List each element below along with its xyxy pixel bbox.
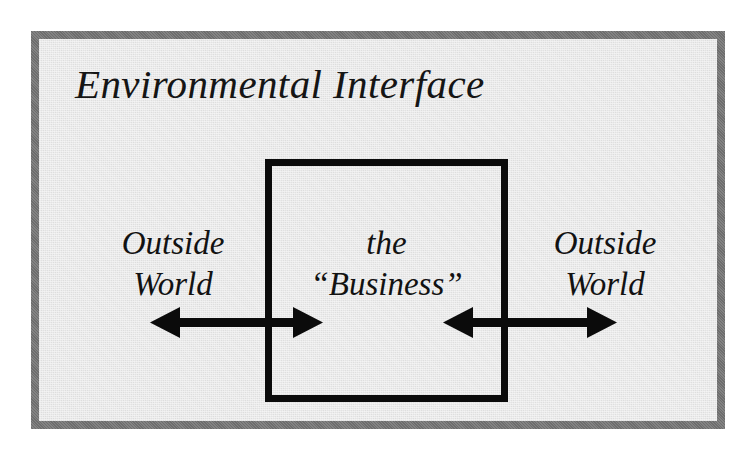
business-box <box>265 159 508 402</box>
outside-world-left-line2: World <box>83 264 263 305</box>
environmental-interface-frame: Environmental Interface Outside World Ou… <box>31 31 725 429</box>
outside-world-left-line1: Outside <box>122 225 225 261</box>
outside-world-right-line1: Outside <box>554 225 657 261</box>
outside-world-right-line2: World <box>515 264 695 305</box>
outside-world-left-label: Outside World <box>83 223 263 306</box>
environmental-interface-title: Environmental Interface <box>75 63 485 106</box>
outside-world-right-label: Outside World <box>515 223 695 306</box>
environmental-interface-diagram: Environmental Interface Outside World Ou… <box>0 0 752 451</box>
